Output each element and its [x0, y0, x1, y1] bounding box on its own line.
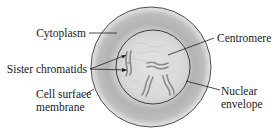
label-centromere: Centromere: [217, 32, 271, 44]
label-nuclear-envelope-2: envelope: [221, 98, 263, 111]
label-sister-chromatids: Sister chromatids: [7, 63, 88, 75]
cell-diagram: Cytoplasm Sister chromatids Cell surface…: [0, 0, 275, 135]
label-cytoplasm: Cytoplasm: [36, 27, 86, 40]
label-cell-surface-membrane-2: membrane: [36, 101, 85, 113]
label-cell-surface-membrane-1: Cell surface: [36, 88, 91, 100]
label-nuclear-envelope-1: Nuclear: [221, 85, 258, 97]
